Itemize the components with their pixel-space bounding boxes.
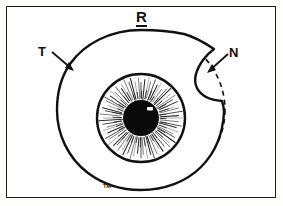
temporal-label: T — [38, 45, 46, 58]
pupil — [123, 100, 159, 136]
page-title-text: R — [136, 9, 147, 27]
nasal-arrow — [207, 54, 228, 73]
eye-diagram-figure: R T N TM — [0, 0, 283, 206]
corneal-light-reflex — [147, 107, 153, 110]
nasal-label: N — [229, 46, 239, 59]
page-title: R — [0, 9, 283, 27]
eye-diagram-canvas — [0, 0, 283, 206]
bottom-mark: TM — [103, 183, 111, 189]
